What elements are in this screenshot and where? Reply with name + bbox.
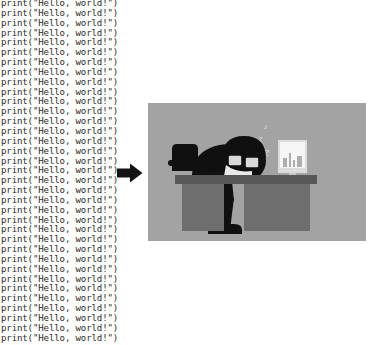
desk-top	[175, 175, 317, 184]
code-listing[interactable]: print("Hello, world!")print("Hello, worl…	[0, 0, 130, 345]
desk	[175, 175, 317, 231]
right-arrow-icon	[117, 163, 143, 183]
code-line: print("Hello, world!")	[1, 334, 129, 344]
code-line-stack: print("Hello, world!")print("Hello, worl…	[1, 0, 129, 344]
desk-right-panel	[244, 184, 310, 231]
computer-monitor	[278, 140, 307, 178]
desk-left-panel	[182, 184, 224, 231]
arrow-shape	[117, 164, 143, 183]
illustration-panel: z z z	[148, 103, 366, 241]
